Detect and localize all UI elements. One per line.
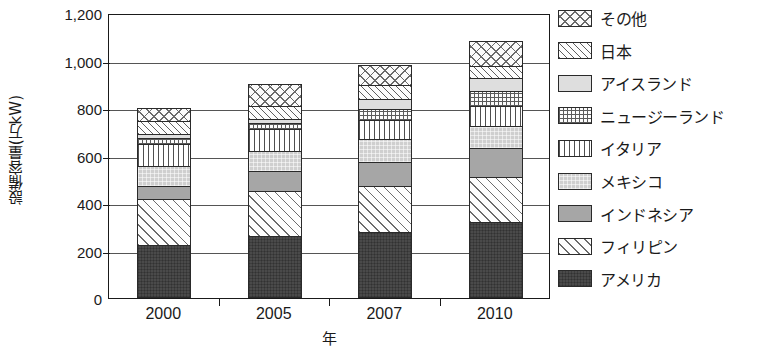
bar-segment[interactable] bbox=[469, 177, 523, 222]
bar-segment[interactable] bbox=[248, 151, 302, 171]
solid-light-swatch bbox=[558, 173, 592, 190]
solid-very-light-swatch bbox=[558, 75, 592, 92]
y-axis-tick-mark bbox=[103, 63, 110, 64]
legend-label: イタリア bbox=[600, 136, 661, 160]
y-axis-tick-label: 1,200 bbox=[38, 7, 102, 22]
x-axis-tick-label-2005: 2005 bbox=[234, 305, 314, 323]
fine-grid-swatch bbox=[558, 107, 592, 124]
x-axis-title: 年 bbox=[108, 327, 550, 347]
bar-segment[interactable] bbox=[248, 129, 302, 150]
y-axis-tick-mark bbox=[103, 110, 110, 111]
bar-segment[interactable] bbox=[358, 186, 412, 232]
bar-segment[interactable] bbox=[469, 91, 523, 105]
x-axis-tick-label-2007: 2007 bbox=[344, 305, 424, 323]
bar-segment[interactable] bbox=[358, 109, 412, 120]
plot-area bbox=[108, 14, 550, 299]
bar-segment[interactable] bbox=[469, 66, 523, 78]
bar-segment[interactable] bbox=[137, 144, 191, 167]
legend-label: アメリカ bbox=[600, 267, 661, 291]
bar-segment[interactable] bbox=[469, 78, 523, 91]
legend-label: アイスランド bbox=[600, 71, 692, 95]
y-axis-tick-label: 1,000 bbox=[38, 54, 102, 69]
bar-segment[interactable] bbox=[137, 199, 191, 244]
cross-hatch-swatch bbox=[558, 10, 592, 27]
bar-segment[interactable] bbox=[137, 245, 191, 298]
chart-legend: その他日本アイスランドニュージーランドイタリアメキシコインドネシアフィリピンアメ… bbox=[558, 6, 762, 306]
bar-segment[interactable] bbox=[358, 232, 412, 298]
bar-segment[interactable] bbox=[358, 99, 412, 110]
bar-segment[interactable] bbox=[137, 166, 191, 186]
bar-segment[interactable] bbox=[248, 84, 302, 105]
solid-dark-swatch bbox=[558, 270, 592, 287]
bar-segment[interactable] bbox=[248, 171, 302, 191]
bar-2005[interactable] bbox=[248, 84, 302, 298]
y-axis-tick-label: 800 bbox=[38, 102, 102, 117]
y-axis-tick-mark bbox=[103, 253, 110, 254]
legend-item-4[interactable]: イタリア bbox=[558, 136, 661, 160]
legend-item-1[interactable]: 日本 bbox=[558, 39, 631, 63]
bar-segment[interactable] bbox=[358, 139, 412, 162]
bar-2000[interactable] bbox=[137, 108, 191, 298]
bar-segment[interactable] bbox=[248, 106, 302, 119]
bar-segment[interactable] bbox=[137, 108, 191, 121]
bar-segment[interactable] bbox=[469, 126, 523, 149]
x-axis-tick-label-2000: 2000 bbox=[123, 305, 203, 323]
bar-segment[interactable] bbox=[358, 120, 412, 139]
y-axis-tick-mark bbox=[103, 205, 110, 206]
x-axis-tick-label-2010: 2010 bbox=[455, 305, 535, 323]
y-axis-tick-label: 0 bbox=[38, 292, 102, 307]
bar-segment[interactable] bbox=[137, 186, 191, 199]
y-axis-tick-label: 600 bbox=[38, 149, 102, 164]
vertical-lines-swatch bbox=[558, 140, 592, 157]
bar-segment[interactable] bbox=[469, 106, 523, 126]
legend-label: その他 bbox=[600, 6, 647, 30]
legend-item-2[interactable]: アイスランド bbox=[558, 71, 692, 95]
bar-segment[interactable] bbox=[137, 121, 191, 134]
y-axis-tick-labels: 1,2001,0008006004002000 bbox=[26, 0, 102, 347]
legend-label: フィリピン bbox=[600, 234, 678, 258]
y-axis-tick-label: 200 bbox=[38, 244, 102, 259]
bar-segment[interactable] bbox=[469, 41, 523, 66]
bar-segment[interactable] bbox=[469, 148, 523, 177]
bar-segment[interactable] bbox=[469, 222, 523, 298]
legend-label: インドネシア bbox=[600, 202, 693, 226]
diagonal-sparse-swatch bbox=[558, 238, 592, 255]
stacked-bar-chart: 設備容量(万kW) 1,2001,0008006004002000 200020… bbox=[0, 0, 764, 347]
diagonal-dense-swatch bbox=[558, 42, 592, 59]
bar-segment[interactable] bbox=[248, 236, 302, 298]
x-axis-tick-labels: 2000200520072010 bbox=[108, 305, 550, 329]
legend-item-6[interactable]: インドネシア bbox=[558, 202, 693, 226]
y-axis-title: 設備容量(万kW) bbox=[2, 0, 28, 300]
legend-label: ニュージーランド bbox=[600, 104, 724, 128]
legend-item-0[interactable]: その他 bbox=[558, 6, 647, 30]
bar-2007[interactable] bbox=[358, 65, 412, 298]
bar-2010[interactable] bbox=[469, 41, 523, 298]
legend-label: メキシコ bbox=[600, 169, 662, 193]
bar-segment[interactable] bbox=[358, 65, 412, 86]
y-axis-tick-mark bbox=[103, 158, 110, 159]
legend-label: 日本 bbox=[600, 39, 631, 63]
legend-item-7[interactable]: フィリピン bbox=[558, 234, 678, 258]
legend-item-3[interactable]: ニュージーランド bbox=[558, 104, 724, 128]
legend-item-5[interactable]: メキシコ bbox=[558, 169, 662, 193]
legend-item-8[interactable]: アメリカ bbox=[558, 267, 661, 291]
bar-segment[interactable] bbox=[248, 191, 302, 236]
bar-segment[interactable] bbox=[358, 85, 412, 98]
solid-medium-swatch bbox=[558, 205, 592, 222]
y-axis-tick-label: 400 bbox=[38, 197, 102, 212]
y-axis-title-text: 設備容量(万kW) bbox=[5, 95, 26, 205]
bar-segment[interactable] bbox=[358, 162, 412, 186]
